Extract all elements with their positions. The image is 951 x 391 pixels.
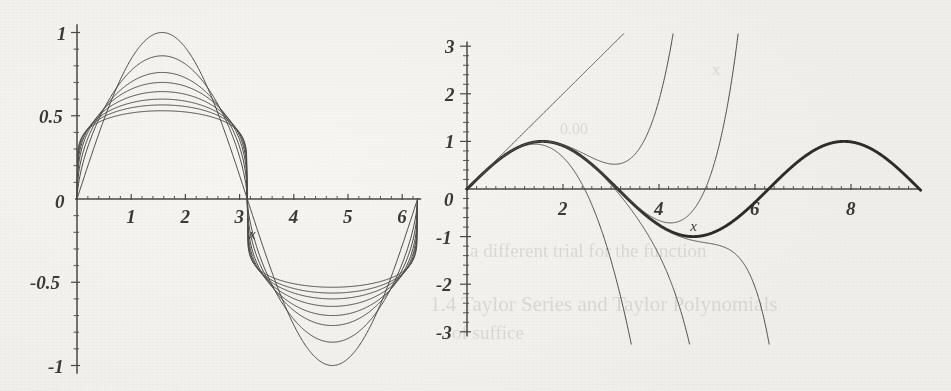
taylor-polynomial-curve bbox=[467, 141, 772, 358]
x-tick-label: 3 bbox=[234, 206, 245, 227]
x-tick-label: 6 bbox=[397, 206, 407, 227]
x-tick-label: 4 bbox=[288, 206, 299, 227]
left-plot: 1234560-1-0.50.51x bbox=[0, 0, 440, 391]
right-plot: 24680-3-2-1123x bbox=[430, 0, 951, 391]
x-tick-label: 8 bbox=[846, 198, 856, 219]
y-tick-label: -1 bbox=[436, 227, 452, 248]
x-tick-label: 2 bbox=[557, 198, 568, 219]
taylor-polynomial-curve bbox=[467, 144, 634, 360]
x-tick-label: 4 bbox=[653, 198, 664, 219]
taylor-polynomial-curve bbox=[467, 19, 740, 223]
taylor-polynomial-curve bbox=[467, 141, 693, 359]
x-axis-label: x bbox=[689, 218, 697, 234]
origin-label: 0 bbox=[55, 191, 65, 212]
y-tick-label: 3 bbox=[444, 36, 455, 57]
y-tick-label: -3 bbox=[436, 322, 452, 343]
x-tick-label: 2 bbox=[179, 206, 190, 227]
y-tick-label: -2 bbox=[436, 274, 452, 295]
x-tick-label: 1 bbox=[126, 206, 136, 227]
origin-label: 0 bbox=[444, 189, 454, 210]
right-plot-canvas: 24680-3-2-1123x bbox=[430, 0, 951, 391]
left-plot-canvas: 1234560-1-0.50.51x bbox=[0, 0, 440, 391]
y-tick-label: 2 bbox=[444, 84, 455, 105]
figure-page: a different trial for the function1.4 Ta… bbox=[0, 0, 951, 391]
x-tick-label: 5 bbox=[343, 206, 353, 227]
y-tick-label: -1 bbox=[48, 356, 64, 377]
y-tick-label: 0.5 bbox=[39, 106, 63, 127]
y-tick-label: 1 bbox=[445, 131, 455, 152]
y-tick-label: 1 bbox=[57, 23, 67, 44]
taylor-polynomial-curve bbox=[467, 18, 676, 189]
y-tick-label: -0.5 bbox=[30, 272, 61, 293]
taylor-polynomial-curve bbox=[467, 18, 640, 189]
